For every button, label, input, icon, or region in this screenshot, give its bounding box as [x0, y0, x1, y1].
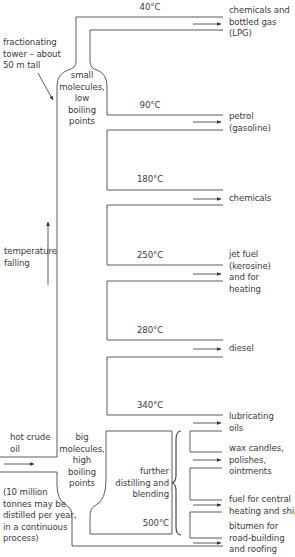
tower-label: fractionating tower – about 50 m tall — [3, 37, 61, 72]
temp-280: 280°C — [130, 325, 170, 337]
big-molecules-label: big molecules, high boiling points — [58, 432, 106, 490]
bracket-wax — [190, 431, 222, 452]
product-chemicals: chemicals — [229, 193, 271, 205]
temp-340: 340°C — [130, 400, 170, 412]
input-note: (10 million tonnes may be distilled per … — [3, 487, 76, 545]
curly-brace — [172, 431, 181, 535]
temp-500: 500°C — [130, 518, 169, 530]
temp-40: 40°C — [130, 2, 170, 14]
product-jetfuel: jet fuel (kerosine) and for heating — [229, 249, 271, 295]
bracket-fuel — [190, 468, 222, 500]
temp-250: 250°C — [130, 250, 170, 262]
small-molecules-label: small molecules, low boiling points — [58, 70, 106, 128]
product-bitumen: bitumen for road-building and roofing — [229, 521, 285, 556]
hot-crude-oil-label: hot crude oil — [10, 432, 50, 455]
product-petrol: petrol (gasoline) — [229, 111, 271, 134]
product-lpg: chemicals and bottled gas (LPG) — [229, 5, 290, 40]
product-wax: wax candles, polishes, ointments — [229, 443, 284, 478]
temp-90: 90°C — [130, 100, 170, 112]
further-distilling-label: further distilling and blending — [108, 466, 169, 501]
product-diesel: diesel — [229, 343, 254, 355]
product-lubricating-oils: lubricating oils — [229, 411, 274, 434]
temperature-falling-label: temperature falling — [4, 246, 57, 269]
product-fuel-oil: fuel for central heating and ships — [229, 494, 295, 517]
bracket-bitumen — [190, 512, 222, 538]
temp-180: 180°C — [130, 174, 170, 186]
tower-pointer-arrow — [38, 73, 53, 100]
